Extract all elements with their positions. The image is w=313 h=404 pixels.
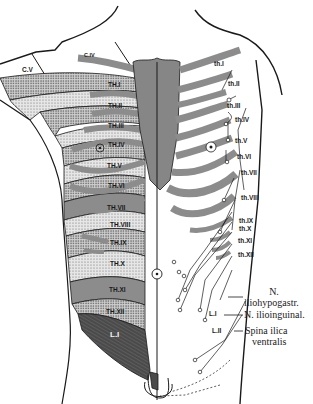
label-nerve-th4: th.IV: [235, 117, 249, 124]
label-th10: TH.X: [110, 261, 125, 268]
annotation-ventralis: ventralis: [252, 337, 286, 348]
label-nerve-th2: th.II: [228, 81, 240, 88]
label-c5: C.V: [22, 67, 33, 74]
label-nerve-th11: th.XI: [238, 238, 252, 245]
label-th2: TH.II: [108, 103, 122, 110]
label-nerve-l2: L.II: [212, 328, 221, 335]
label-nerve-l1: L.I: [209, 311, 217, 318]
label-nerve-th3: th.III: [227, 103, 240, 110]
annotation-iliohypogastric: iliohypogastr.: [244, 298, 299, 309]
label-th8: TH.VIII: [110, 222, 130, 229]
dermatome-diagram: C.V C.IV TH.I TH.II TH.III TH.IV TH.V TH…: [0, 0, 313, 404]
label-nerve-th12: th.XII: [238, 252, 254, 259]
label-th11: TH.XI: [109, 287, 126, 294]
label-th1: TH.I: [108, 82, 120, 89]
label-th9: TH.IX: [110, 240, 127, 247]
label-nerve-th7: th.VII: [241, 170, 257, 177]
label-nerve-th9: th.IX: [239, 218, 253, 225]
label-c4: C.IV: [84, 53, 95, 59]
label-nerve-th6: th.VI: [237, 154, 251, 161]
label-th5: TH.V: [107, 163, 122, 170]
annotation-iliohypogastric-title: N.: [244, 287, 304, 298]
label-l1-left: L.I: [110, 331, 119, 339]
label-nerve-th1: th.I: [214, 61, 224, 68]
annotation-ilioinguinal: N. ilioinguinal.: [244, 310, 305, 321]
label-nerve-th10: th.X: [239, 226, 251, 233]
label-th4: TH.IV: [108, 142, 125, 149]
label-th6: TH.VI: [108, 183, 125, 190]
label-th12: TH.XII: [106, 309, 124, 316]
label-nerve-th5: th.V: [235, 138, 247, 145]
label-th3: TH.III: [108, 123, 124, 130]
label-th7: TH.VII: [107, 205, 125, 212]
annotation-spina-ilica: Spina ilica: [245, 326, 288, 337]
label-nerve-th8: th.VIII: [241, 195, 259, 202]
